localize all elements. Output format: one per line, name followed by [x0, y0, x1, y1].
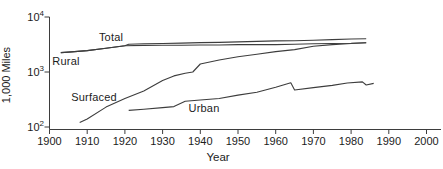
x-tick-label: 1970: [296, 135, 330, 148]
series-line-rural: [61, 43, 366, 53]
x-tick-label: 1950: [221, 135, 255, 148]
series-label-rural: Rural: [52, 55, 79, 68]
x-tick-label: 1980: [334, 135, 368, 148]
x-tick-label: 1900: [33, 135, 67, 148]
x-tick-label: 1910: [70, 135, 104, 148]
x-axis-title: Year: [188, 151, 248, 164]
y-tick-label: 102: [18, 117, 44, 134]
highway-mileage-chart: 1,000 Miles Year 19001910192019301940195…: [0, 0, 443, 169]
x-tick-label: 1920: [108, 135, 142, 148]
series-label-urban: Urban: [189, 102, 220, 115]
x-tick-label: 1960: [259, 135, 293, 148]
x-tick-label: 1930: [146, 135, 180, 148]
x-tick-label: 2000: [410, 135, 443, 148]
y-tick-label: 103: [18, 62, 44, 79]
x-tick-label: 1940: [183, 135, 217, 148]
y-axis-title: 1,000 Miles: [0, 41, 14, 109]
y-tick-label: 104: [18, 7, 44, 24]
series-line-urban: [129, 82, 374, 111]
series-label-surfaced: Surfaced: [71, 91, 117, 104]
series-line-surfaced: [80, 43, 367, 123]
x-tick-label: 1990: [372, 135, 406, 148]
series-label-total: Total: [99, 31, 123, 44]
